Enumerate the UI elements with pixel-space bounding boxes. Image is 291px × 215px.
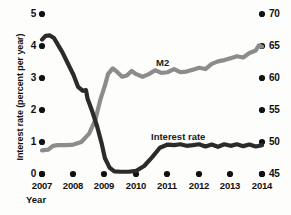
y2-tick-marker [259,11,265,17]
y-tick-marker [39,107,45,113]
x-axis-title: Year [26,194,46,205]
x-tick-label-2007: 2007 [25,180,59,191]
x-tick-marker [164,171,170,177]
y-axis-title: Interest rate (percent per year) [15,22,25,172]
y2-tick-label-45: 45 [269,168,289,179]
x-tick-marker [259,171,265,177]
tick-markers-x [39,171,265,177]
x-tick-label-2010: 2010 [119,180,153,191]
y-tick-marker [39,75,45,81]
interest-rate-line [42,35,262,171]
x-tick-label-2012: 2012 [182,180,216,191]
y2-tick-label-55: 55 [269,104,289,115]
y2-tick-label-70: 70 [269,8,289,19]
x-tick-marker [39,171,45,177]
chart-container: 5 4 3 2 1 0 70 65 60 55 50 45 2007 2008 … [0,0,291,215]
y2-tick-label-50: 50 [269,136,289,147]
y-tick-marker [39,11,45,17]
y-tick-label-5: 5 [22,8,36,19]
x-tick-label-2009: 2009 [87,180,121,191]
y-tick-marker [39,139,45,145]
tick-markers-right [259,11,265,177]
series-label-m2: M2 [156,57,169,68]
y2-tick-label-60: 60 [269,72,289,83]
x-tick-marker [70,171,76,177]
y2-tick-marker [259,107,265,113]
x-tick-label-2013: 2013 [213,180,247,191]
series-label-interest-rate: Interest rate [151,131,205,142]
x-tick-marker [227,171,233,177]
y-tick-marker [39,43,45,49]
y2-tick-label-65: 65 [269,40,289,51]
x-tick-label-2008: 2008 [56,180,90,191]
x-tick-label-2011: 2011 [150,180,184,191]
x-tick-label-2014: 2014 [245,180,279,191]
x-tick-marker [196,171,202,177]
y2-tick-marker [259,75,265,81]
x-tick-marker [101,171,107,177]
